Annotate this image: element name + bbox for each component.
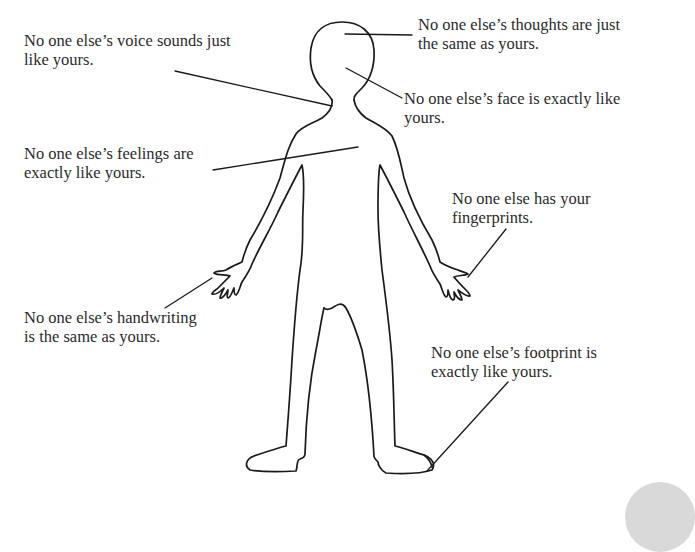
label-handwriting-line1: No one else’s handwriting: [24, 308, 197, 327]
callout-line-thoughts: [345, 34, 412, 35]
label-footprint-line1: No one else’s footprint is: [431, 343, 597, 362]
label-footprint-line2: exactly like yours.: [431, 362, 597, 381]
label-footprint: No one else’s footprint is exactly like …: [431, 343, 597, 381]
callout-line-handwriting: [165, 278, 212, 308]
label-fingerprints: No one else has your fingerprints.: [452, 189, 590, 227]
label-feelings-line2: exactly like yours.: [24, 163, 194, 182]
label-feelings: No one else’s feelings are exactly like …: [24, 144, 194, 182]
label-thoughts-line1: No one else’s thoughts are just: [418, 15, 620, 34]
callout-line-footprint: [427, 382, 508, 471]
label-voice-line2: like yours.: [24, 50, 231, 69]
label-fingerprints-line2: fingerprints.: [452, 208, 590, 227]
body-outline-left: [212, 100, 332, 472]
label-thoughts: No one else’s thoughts are just the same…: [418, 15, 620, 53]
label-voice-line1: No one else’s voice sounds just: [24, 31, 231, 50]
label-face-line2: yours.: [404, 108, 620, 127]
label-face: No one else’s face is exactly like yours…: [404, 89, 620, 127]
page-corner-shadow: [625, 482, 695, 552]
body-outline-right: [324, 100, 470, 474]
label-handwriting-line2: is the same as yours.: [24, 327, 197, 346]
label-handwriting: No one else’s handwriting is the same as…: [24, 308, 197, 346]
callout-line-face: [346, 68, 402, 98]
callout-line-voice: [175, 71, 332, 106]
callout-line-feelings: [213, 147, 358, 170]
label-face-line1: No one else’s face is exactly like: [404, 89, 620, 108]
label-thoughts-line2: the same as yours.: [418, 34, 620, 53]
label-voice: No one else’s voice sounds just like you…: [24, 31, 231, 69]
label-fingerprints-line1: No one else has your: [452, 189, 590, 208]
label-feelings-line1: No one else’s feelings are: [24, 144, 194, 163]
callout-line-fingerprints: [468, 229, 506, 277]
